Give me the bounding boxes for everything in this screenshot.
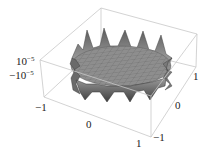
y-tick-front: −1 [153,132,165,143]
y-tick-mid: 0 [175,100,181,111]
x-tick-mid: 0 [86,119,92,130]
z-tick-bottom: −10−5 [9,70,34,81]
surface-mesh-center [71,46,171,86]
x-tick-left: −1 [35,102,47,113]
x-tick-right: 1 [136,138,142,149]
y-tick-back: 1 [193,71,199,82]
z-tick-top: 10−5 [16,56,34,67]
